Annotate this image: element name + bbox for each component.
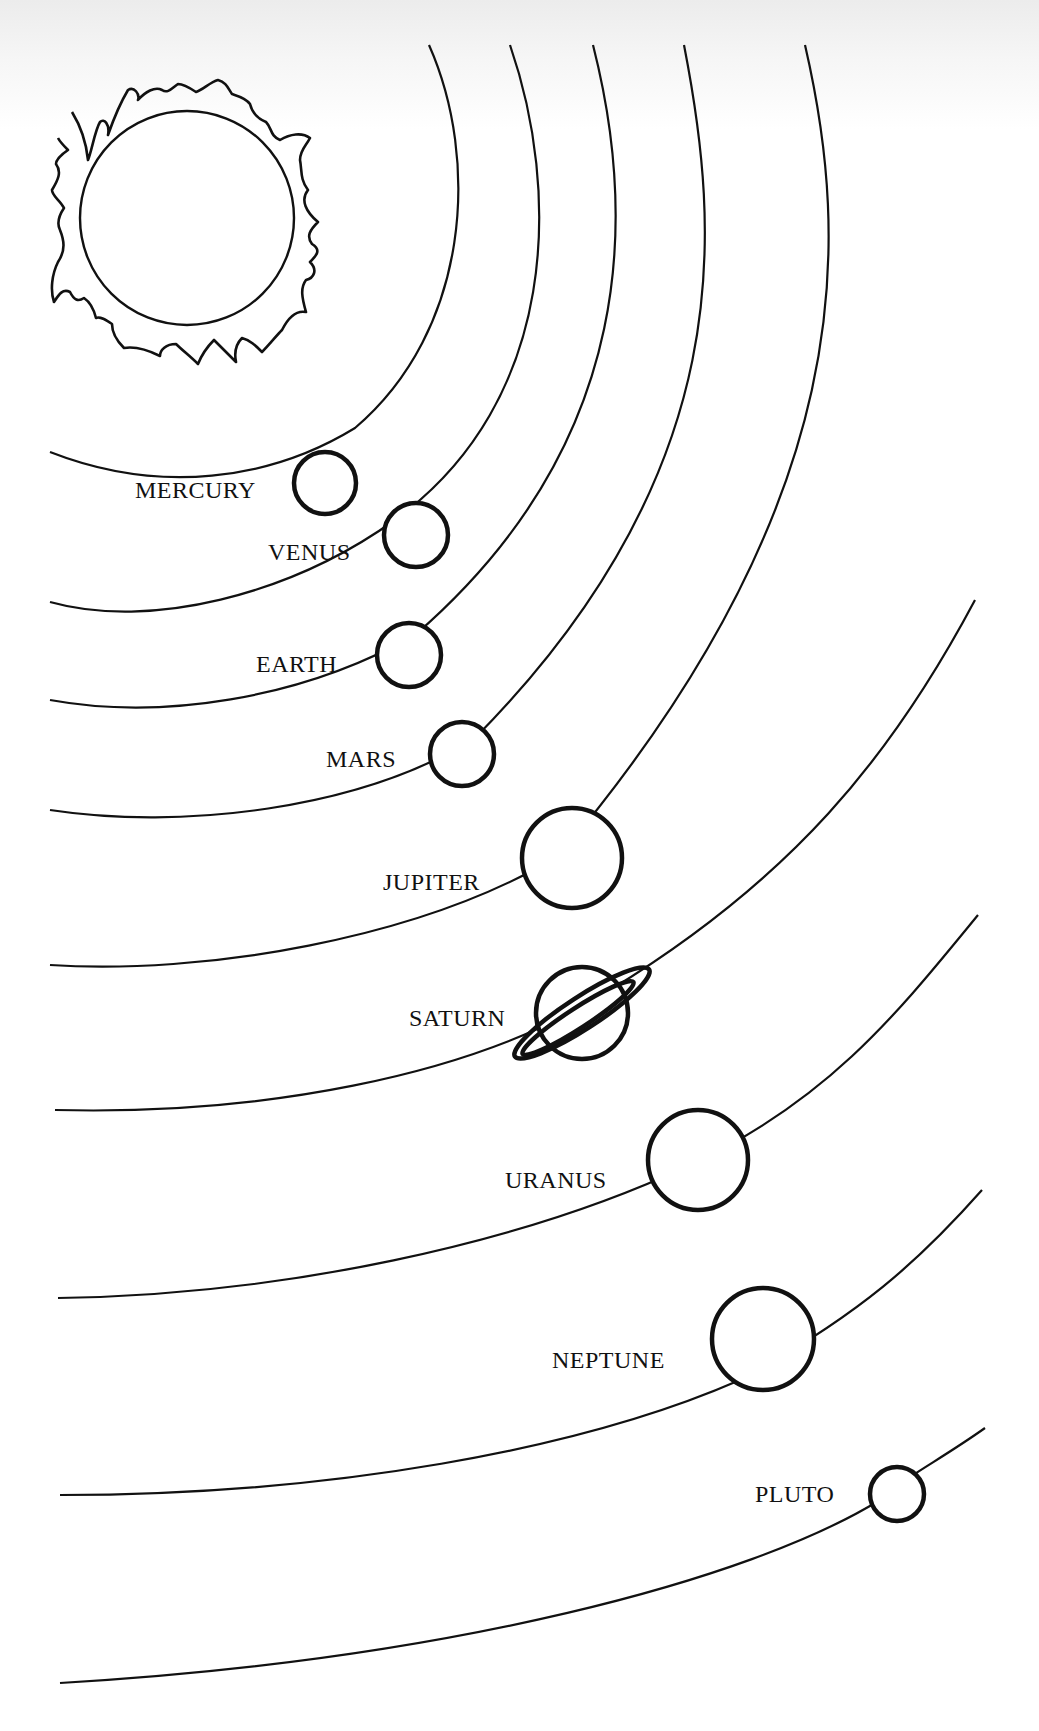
planet-neptune — [712, 1288, 814, 1390]
label-saturn: SATURN — [409, 1006, 505, 1030]
label-jupiter: JUPITER — [383, 870, 480, 894]
planet-pluto — [870, 1467, 924, 1521]
sun — [52, 80, 318, 364]
label-mercury: MERCURY — [135, 478, 256, 502]
orbit-pluto — [60, 1428, 985, 1683]
planet-mercury — [294, 452, 356, 514]
label-mars: MARS — [326, 747, 396, 771]
planet-earth — [377, 623, 441, 687]
label-earth: EARTH — [256, 652, 337, 676]
label-venus: VENUS — [268, 540, 351, 564]
orbit-venus — [50, 45, 539, 612]
planet-uranus — [648, 1110, 748, 1210]
label-uranus: URANUS — [505, 1168, 607, 1192]
label-neptune: NEPTUNE — [552, 1348, 665, 1372]
planet-venus — [384, 503, 448, 567]
sun-disk — [80, 111, 294, 325]
solar-system-diagram — [0, 0, 1039, 1731]
orbit-saturn — [55, 600, 975, 1110]
planet-jupiter — [522, 808, 622, 908]
label-pluto: PLUTO — [755, 1482, 834, 1506]
planet-mars — [430, 722, 494, 786]
orbit-neptune — [60, 1190, 982, 1495]
